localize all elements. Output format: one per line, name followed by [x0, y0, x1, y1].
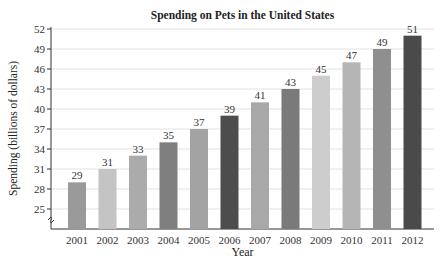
bar — [129, 156, 147, 229]
bar-value-label: 35 — [163, 129, 175, 141]
bar-value-label: 43 — [285, 76, 297, 88]
y-tick-label: 28 — [34, 183, 46, 195]
bar-value-label: 29 — [72, 169, 84, 181]
y-tick-label: 52 — [34, 23, 45, 35]
y-tick-label: 43 — [34, 83, 46, 95]
bar-value-label: 49 — [377, 36, 389, 48]
x-tick-label: 2005 — [188, 234, 211, 246]
x-tick-label: 2011 — [371, 234, 393, 246]
x-tick-label: 2007 — [249, 234, 272, 246]
x-tick-label: 2012 — [402, 234, 424, 246]
axis-break-icon — [48, 217, 54, 223]
x-tick-label: 2008 — [280, 234, 303, 246]
bar-value-label: 33 — [133, 143, 145, 155]
x-tick-label: 2010 — [341, 234, 364, 246]
bar — [282, 89, 300, 229]
bar — [373, 49, 391, 229]
y-tick-label: 34 — [34, 143, 46, 155]
x-tick-label: 2001 — [66, 234, 88, 246]
bar-value-label: 31 — [102, 156, 113, 168]
bar — [160, 142, 178, 229]
bar — [251, 102, 269, 229]
y-tick-label: 46 — [34, 63, 46, 75]
y-tick-label: 31 — [34, 163, 45, 175]
bar — [221, 116, 239, 229]
x-tick-label: 2002 — [97, 234, 119, 246]
y-tick-label: 37 — [34, 123, 46, 135]
y-tick-label: 40 — [34, 103, 46, 115]
bar-value-label: 39 — [224, 103, 236, 115]
bar-value-label: 45 — [316, 63, 328, 75]
bar — [404, 36, 422, 229]
bar-value-label: 41 — [255, 89, 266, 101]
x-tick-label: 2003 — [127, 234, 150, 246]
bar — [312, 76, 330, 229]
bar-value-label: 37 — [194, 116, 206, 128]
x-tick-label: 2006 — [219, 234, 242, 246]
x-tick-label: 2004 — [158, 234, 181, 246]
bar — [99, 169, 117, 229]
bar — [190, 129, 208, 229]
bar — [343, 62, 361, 229]
bar-chart: 2528313437404346495229200131200233200335… — [0, 0, 443, 273]
y-tick-label: 49 — [34, 43, 46, 55]
y-tick-label: 25 — [34, 203, 46, 215]
bar-value-label: 51 — [407, 23, 418, 35]
bar — [68, 182, 86, 229]
bar-value-label: 47 — [346, 49, 358, 61]
x-tick-label: 2009 — [310, 234, 333, 246]
